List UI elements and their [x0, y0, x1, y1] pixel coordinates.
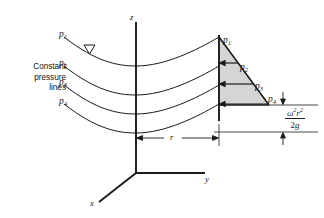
- pressure-curve-p1: [64, 37, 219, 66]
- x-axis-line: [99, 173, 136, 202]
- prism-label-p1-sub: 1: [228, 39, 231, 46]
- free-surface-triangle-icon: [84, 45, 95, 54]
- curve-label-p1: p1: [59, 30, 67, 40]
- prism-label-p3-sub: 3: [260, 85, 263, 92]
- curve-label-p1-sub: 1: [64, 33, 67, 40]
- prism-label-p2-sub: 2: [245, 66, 248, 73]
- prism-label-p4: p4: [268, 95, 276, 105]
- radius-dimension-label: r: [170, 133, 173, 142]
- curve-label-p2-sub: 2: [64, 62, 67, 69]
- pressure-curve-p2: [64, 66, 219, 95]
- constant-pressure-curves: [64, 37, 219, 133]
- pressure-curve-p3: [64, 85, 219, 114]
- denominator-g: g: [295, 120, 300, 130]
- axis-label-z: z: [130, 13, 133, 22]
- axis-label-y: y: [205, 175, 209, 184]
- diagram-canvas: [0, 0, 324, 218]
- prism-label-p1: p1: [223, 36, 231, 46]
- radius-dimension-arrow: [137, 136, 219, 141]
- curve-label-p3: p3: [59, 78, 67, 88]
- axis-label-x: x: [90, 199, 94, 208]
- r-exponent: 2: [300, 106, 303, 113]
- curve-label-p4: p4: [59, 97, 67, 107]
- height-formula-numerator: ω2r2: [285, 106, 305, 119]
- prism-label-p4-sub: 4: [273, 98, 276, 105]
- curve-label-p2: p2: [59, 59, 67, 69]
- height-formula: ω2r2 2g: [285, 106, 305, 130]
- pressure-diagram-figure: Constant pressure lines p1 p2 p3 p4 p1 p…: [0, 0, 324, 218]
- height-formula-denominator: 2g: [285, 119, 305, 130]
- constant-pressure-lines-caption: Constant pressure lines: [8, 62, 66, 94]
- prism-label-p3: p3: [255, 82, 263, 92]
- pressure-curve-p4: [64, 104, 219, 133]
- curve-label-p3-sub: 3: [64, 81, 67, 88]
- prism-label-p2: p2: [240, 63, 248, 73]
- curve-label-p4-sub: 4: [64, 100, 67, 107]
